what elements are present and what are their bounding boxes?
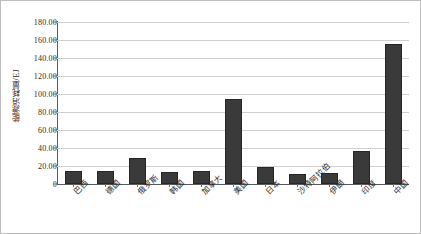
x-label-slot: 沙特阿拉伯 [281,188,313,234]
bar-chart-figure: 能源消耗量/EJ 180.00160.00140.00120.00100.008… [0,0,421,234]
y-axis-tick-label: 120.00 [11,72,57,81]
bar-series [57,22,409,184]
x-label-slot: 印度 [345,188,377,234]
x-label-slot: 中国 [377,188,409,234]
bar-slot [217,22,249,184]
bar-slot [313,22,345,184]
bar-slot [377,22,409,184]
x-label-slot: 美国 [217,188,249,234]
bar-slot [249,22,281,184]
bar[interactable] [353,151,370,184]
x-label-slot: 伊朗 [313,188,345,234]
bar-slot [281,22,313,184]
x-label-slot: 德国 [89,188,121,234]
y-axis-tick-label: 100.00 [11,90,57,99]
y-axis-tick-label: 180.00 [11,18,57,27]
bar[interactable] [225,99,242,185]
y-axis-tick-label: 60.00 [11,126,57,135]
bar-slot [345,22,377,184]
bar-slot [57,22,89,184]
y-axis-tick-label: 80.00 [11,108,57,117]
y-axis-tick-label: 40.00 [11,144,57,153]
y-axis-tick-label: 20.00 [11,162,57,171]
bar[interactable] [385,44,402,184]
bar-slot [185,22,217,184]
bar-slot [121,22,153,184]
y-axis-tick-label: 0 [11,180,57,189]
x-axis-tick-labels: 巴西德国俄罗斯韩国加拿大美国日本沙特阿拉伯伊朗印度中国 [57,188,409,234]
y-axis-tick-label: 160.00 [11,36,57,45]
y-axis-tick-label: 140.00 [11,54,57,63]
x-label-slot: 巴西 [57,188,89,234]
plot-area [57,22,409,184]
bar-slot [153,22,185,184]
x-label-slot: 日本 [249,188,281,234]
y-axis-tick-labels: 180.00160.00140.00120.00100.0080.0060.00… [1,1,57,234]
x-label-slot: 加拿大 [185,188,217,234]
x-label-slot: 俄罗斯 [121,188,153,234]
x-label-slot: 韩国 [153,188,185,234]
bar-slot [89,22,121,184]
